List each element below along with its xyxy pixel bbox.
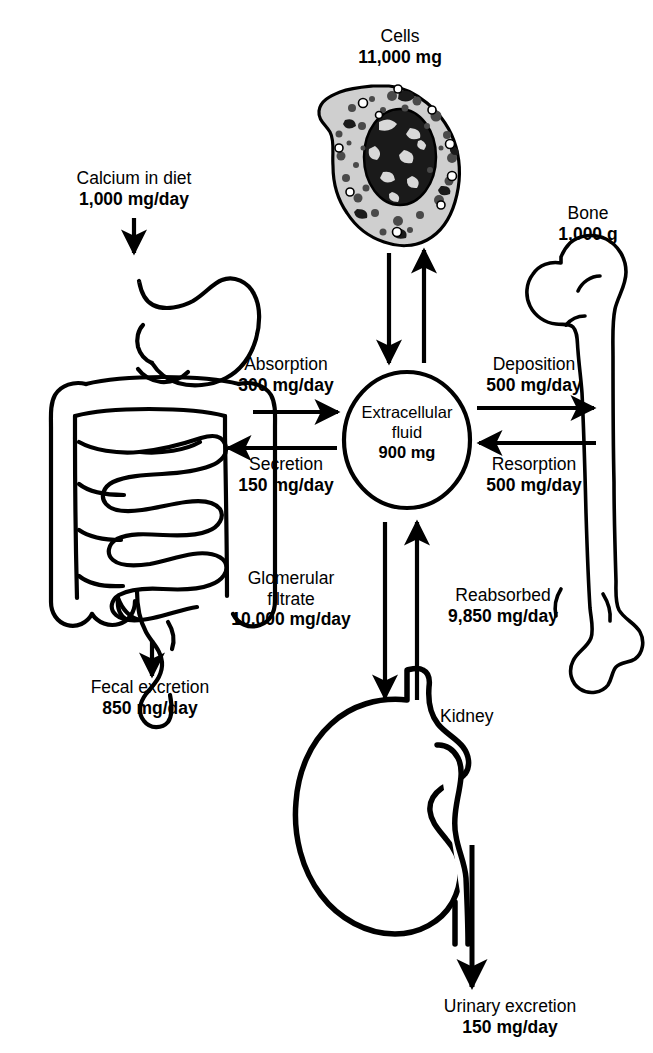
cells-name: Cells	[330, 26, 470, 47]
reabsorbed-name: Reabsorbed	[430, 585, 576, 606]
bone-value: 1,000 g	[526, 224, 650, 245]
urinary-excretion-label: Urinary excretion 150 mg/day	[404, 996, 616, 1037]
absorption-value: 300 mg/day	[222, 375, 350, 396]
glomerular-filtrate-value: 10,000 mg/day	[213, 609, 369, 630]
diet-name: Calcium in diet	[46, 168, 222, 189]
reabsorbed-value: 9,850 mg/day	[430, 606, 576, 627]
resorption-value: 500 mg/day	[467, 475, 601, 496]
glomerular-filtrate-line2: filtrate	[213, 589, 369, 610]
kidney-name: Kidney	[440, 706, 550, 727]
urinary-name: Urinary excretion	[404, 996, 616, 1017]
resorption-name: Resorption	[467, 454, 601, 475]
secretion-value: 150 mg/day	[222, 475, 350, 496]
ecf-line1: Extracellular	[345, 403, 469, 423]
fecal-name: Fecal excretion	[50, 677, 250, 698]
resorption-label: Resorption 500 mg/day	[467, 454, 601, 495]
cell-icon	[319, 85, 459, 246]
deposition-label: Deposition 500 mg/day	[467, 354, 601, 395]
deposition-name: Deposition	[467, 354, 601, 375]
diet-value: 1,000 mg/day	[46, 189, 222, 210]
glomerular-filtrate-line1: Glomerular	[213, 568, 369, 589]
extracellular-fluid-text: Extracellular fluid 900 mg	[345, 403, 469, 462]
diagram-graphics-layer	[0, 0, 653, 1053]
secretion-name: Secretion	[222, 454, 350, 475]
gi-tract-icon	[51, 278, 275, 727]
calcium-metabolism-diagram: Cells 11,000 mg Bone 1,000 g Calcium in …	[0, 0, 653, 1053]
cells-value: 11,000 mg	[330, 47, 470, 68]
cells-label: Cells 11,000 mg	[330, 26, 470, 67]
deposition-value: 500 mg/day	[467, 375, 601, 396]
reabsorbed-label: Reabsorbed 9,850 mg/day	[430, 585, 576, 626]
absorption-label: Absorption 300 mg/day	[222, 354, 350, 395]
fecal-value: 850 mg/day	[50, 698, 250, 719]
calcium-in-diet-label: Calcium in diet 1,000 mg/day	[46, 168, 222, 209]
secretion-label: Secretion 150 mg/day	[222, 454, 350, 495]
ecf-value: 900 mg	[345, 443, 469, 463]
fecal-excretion-label: Fecal excretion 850 mg/day	[50, 677, 250, 718]
bone-label: Bone 1,000 g	[526, 203, 650, 244]
kidney-label: Kidney	[440, 706, 550, 727]
glomerular-filtrate-label: Glomerular filtrate 10,000 mg/day	[213, 568, 369, 630]
bone-name: Bone	[526, 203, 650, 224]
absorption-name: Absorption	[222, 354, 350, 375]
ecf-line2: fluid	[345, 423, 469, 443]
urinary-value: 150 mg/day	[404, 1017, 616, 1038]
